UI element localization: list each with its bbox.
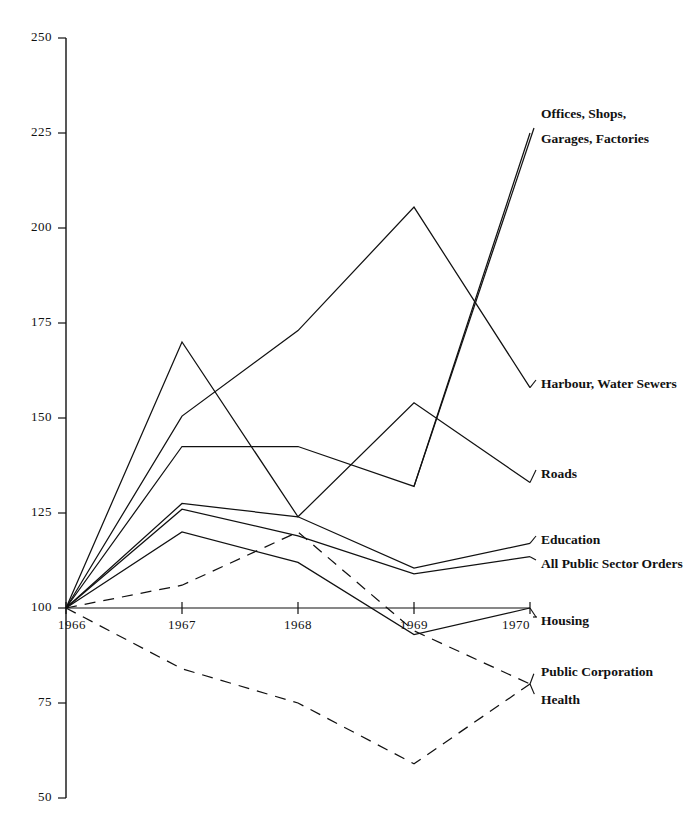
y-axis-ticks [58, 38, 66, 798]
chart-canvas: 250 225 200 175 150 125 100 75 50 1966 1… [0, 0, 686, 826]
y-tick-label-75: 75 [38, 694, 52, 709]
series-label-harbour: Harbour, Water Sewers [541, 376, 677, 391]
x-tick-label-1970: 1970 [502, 617, 530, 632]
series-label-all-public: All Public Sector Orders [541, 556, 683, 571]
x-tick-label-1967: 1967 [168, 617, 196, 632]
leader-line-harbour-water-sewers [530, 380, 536, 388]
series-line-harbour-water-sewers [66, 207, 530, 608]
series-label-offices-line2: Garages, Factories [541, 131, 649, 146]
y-tick-label-50: 50 [38, 789, 52, 804]
series-label-roads: Roads [541, 466, 577, 481]
series-label-education: Education [541, 532, 601, 547]
leader-line-public-corporation [530, 668, 536, 684]
y-tick-label-125: 125 [31, 504, 52, 519]
line-chart: 250 225 200 175 150 125 100 75 50 1966 1… [0, 0, 686, 826]
x-tick-label-1968: 1968 [284, 617, 312, 632]
y-tick-label-200: 200 [31, 219, 52, 234]
x-tick-label-1969: 1969 [400, 617, 428, 632]
series-line-roads [66, 342, 530, 608]
series-layer [66, 133, 530, 764]
leader-line-roads [530, 470, 536, 483]
series-line-offices-shops-garages-factories [66, 133, 530, 608]
leader-line-all-public-sector-orders [530, 557, 536, 560]
y-tick-label-175: 175 [31, 314, 52, 329]
y-tick-label-100: 100 [31, 599, 52, 614]
y-tick-label-150: 150 [31, 409, 52, 424]
leader-line-offices-shops-garages-factories [414, 128, 534, 486]
series-label-offices-line1: Offices, Shops, [541, 106, 626, 121]
series-line-education [66, 504, 530, 609]
y-tick-label-225: 225 [31, 124, 52, 139]
leader-line-education [530, 536, 536, 543]
series-label-health: Health [541, 692, 580, 707]
leader-lines [414, 128, 537, 698]
series-labels: Offices, Shops, Garages, Factories Harbo… [541, 106, 683, 707]
y-axis-tick-labels: 250 225 200 175 150 125 100 75 50 [31, 29, 52, 804]
leader-line-health [530, 684, 536, 698]
leader-line-housing [530, 608, 536, 617]
series-label-public-corp: Public Corporation [541, 664, 654, 679]
y-tick-label-250: 250 [31, 29, 52, 44]
x-tick-label-1966: 1966 [58, 617, 86, 632]
series-label-housing: Housing [541, 613, 589, 628]
